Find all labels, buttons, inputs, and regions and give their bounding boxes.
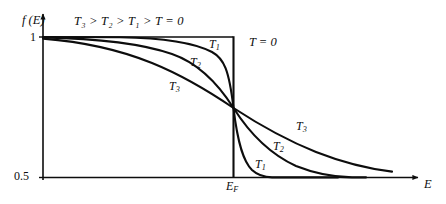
y-axis-label: f (E) <box>22 14 45 27</box>
t1-subscript-right: 1 <box>262 163 266 172</box>
t3-subscript-right: 3 <box>303 125 307 134</box>
t3-subscript-left: 3 <box>176 85 180 94</box>
fermi-energy-subscript: F <box>233 185 238 194</box>
y-tick-label-one: 1 <box>30 31 36 43</box>
temperature-ordering-annotation: T₃ > T₂ > T₁ > T = 0 <box>74 15 184 28</box>
curve-label-t2-right: T2 <box>273 140 284 154</box>
t1-symbol-right: T <box>255 157 262 171</box>
curve-label-t-zero: T = 0 <box>249 36 277 49</box>
x-axis-label: E <box>424 178 432 191</box>
curve-t2 <box>43 37 366 177</box>
t1-symbol-left: T <box>209 37 216 51</box>
t3-symbol-left: T <box>169 79 176 93</box>
x-tick-label-fermi-energy: EF <box>226 180 238 194</box>
curve-label-t1-left: T1 <box>209 38 220 52</box>
t2-subscript-left: 2 <box>197 61 201 70</box>
t2-symbol-right: T <box>273 139 280 153</box>
curve-label-t1-right: T1 <box>255 158 266 172</box>
t1-subscript-left: 1 <box>216 43 220 52</box>
plot-canvas <box>0 0 446 204</box>
t2-symbol-left: T <box>190 55 197 69</box>
curve-label-t3-right: T3 <box>296 120 307 134</box>
t3-symbol-right: T <box>296 119 303 133</box>
curve-label-t3-left: T3 <box>169 80 180 94</box>
curve-label-t2-left: T2 <box>190 56 201 70</box>
t2-subscript-right: 2 <box>280 145 284 154</box>
y-tick-label-half: 0.5 <box>14 170 29 182</box>
curve-t3 <box>43 39 392 172</box>
fermi-dirac-distribution-figure: f (E) E 1 0.5 EF T₃ > T₂ > T₁ > T = 0 T … <box>0 0 446 204</box>
